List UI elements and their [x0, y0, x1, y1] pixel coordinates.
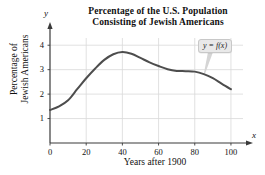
x-axis-title: Years after 1900: [60, 157, 250, 167]
y-tick-label: 4: [30, 40, 44, 50]
x-tick-label: 80: [185, 147, 205, 157]
function-annotation-label: y = f(x): [198, 39, 232, 53]
x-tick-label: 100: [221, 147, 241, 157]
y-tick-label: 2: [30, 89, 44, 99]
x-tick-label: 0: [40, 147, 60, 157]
y-tick-label: 3: [30, 64, 44, 74]
annotation-pointer: [204, 52, 213, 74]
y-tick-label: 1: [30, 113, 44, 123]
chart-figure: Percentage of the U.S. Population Consis…: [0, 0, 265, 175]
y-axis-symbol: y: [44, 8, 48, 18]
data-curve: [50, 52, 231, 110]
gridlines: [50, 38, 243, 143]
x-tick-label: 20: [76, 147, 96, 157]
y-axis-title-line-1: Percentage of: [9, 43, 19, 95]
x-tick-label: 60: [149, 147, 169, 157]
x-axis-symbol: x: [252, 130, 256, 140]
y-axis-title-line-2: Jewish Americans: [20, 35, 30, 104]
x-tick-label: 40: [112, 147, 132, 157]
y-axis-title: Percentage of Jewish Americans: [9, 21, 31, 117]
